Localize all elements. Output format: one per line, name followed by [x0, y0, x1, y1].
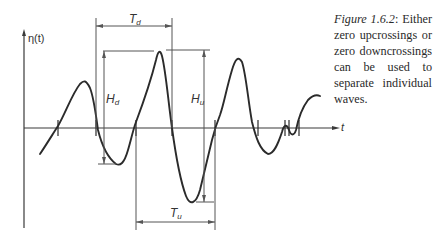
tu-label: Tu — [170, 206, 182, 221]
y-axis-arrow-icon — [22, 29, 26, 36]
wave-curve — [40, 52, 320, 202]
wave-figure: η(t) t Td — [0, 0, 439, 240]
hu-arrow-down-icon — [202, 195, 206, 202]
x-axis-label: t — [341, 121, 345, 133]
caption-text: : Either zero upcrossings or zero downcr… — [334, 12, 432, 106]
x-axis-arrow-icon — [332, 126, 340, 130]
y-axis-label: η(t) — [28, 32, 45, 44]
hu-dimension — [166, 50, 214, 202]
figure-caption: Figure 1.6.2: Either zero upcrossings or… — [334, 11, 432, 107]
hd-arrow-down-icon — [102, 157, 106, 164]
tu-arrow-right-icon — [208, 220, 215, 224]
td-arrow-right-icon — [165, 24, 172, 28]
hu-arrow-up-icon — [202, 50, 206, 57]
td-label: Td — [129, 12, 141, 27]
td-dimension — [96, 18, 172, 128]
hd-label: Hd — [106, 92, 120, 107]
hd-arrow-up-icon — [102, 51, 106, 58]
tu-arrow-left-icon — [136, 220, 143, 224]
td-arrow-left-icon — [96, 24, 103, 28]
hd-dimension — [98, 51, 154, 164]
hu-label: Hu — [191, 92, 205, 107]
caption-label: Figure 1.6.2 — [334, 12, 395, 26]
